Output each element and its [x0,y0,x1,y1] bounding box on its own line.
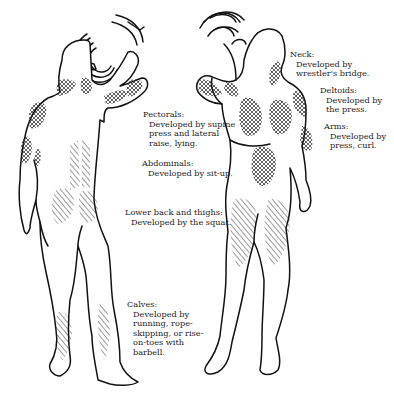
label-lower-back-thighs: Lower back and thighs: Developed by the … [125,208,231,227]
muscle-diagram: Neck: Developed by wrestler's bridge. De… [0,0,394,405]
muscle-lower-back-2 [82,140,90,188]
label-pectorals: Pectorals: Developed by supine press and… [143,110,235,148]
label-abdominals-line: Developed by sit-up. [142,169,233,179]
label-calves: Calves: Developed by running, rope- skip… [127,300,203,358]
label-arms: Arms: Developed by press, curl. [324,122,386,151]
label-neck-line: wrestler's bridge. [290,69,369,79]
label-abdominals: Abdominals: Developed by sit-up. [142,159,233,178]
label-arms-line: press, curl. [324,141,386,151]
muscle-thigh-left [231,199,257,269]
label-pectorals-line: raise, lying. [143,139,235,149]
label-calves-line: barbell. [127,348,203,358]
label-deltoids-line: the press. [320,105,382,115]
label-deltoids: Deltoids: Developed by the press. [320,86,382,115]
label-lower-back-thighs-line: Developed by the squat. [125,218,231,228]
muscle-hamstring-right [79,191,98,223]
dumbbell-front-icon [200,12,246,44]
label-neck: Neck: Developed by wrestler's bridge. [290,50,369,79]
